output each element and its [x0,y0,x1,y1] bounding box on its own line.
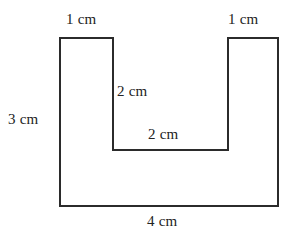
dimension-label-top-left-arm: 1 cm [66,12,96,27]
dimension-label-notch-depth: 2 cm [117,84,147,99]
u-shape-polygon [60,38,278,206]
geometry-figure: 1 cm 1 cm 3 cm 2 cm 2 cm 4 cm [0,0,300,249]
dimension-label-top-right-arm: 1 cm [228,12,258,27]
u-shape-outline-svg [0,0,300,249]
dimension-label-left-height: 3 cm [8,112,38,127]
dimension-label-bottom-width: 4 cm [147,214,177,229]
dimension-label-notch-width: 2 cm [148,127,178,142]
